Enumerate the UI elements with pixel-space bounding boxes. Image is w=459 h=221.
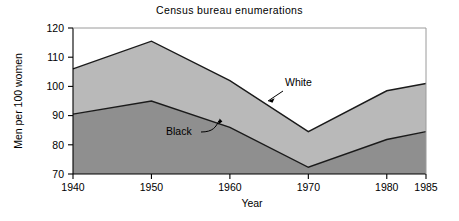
x-tick-label: 1980 <box>375 181 399 193</box>
x-tick-label: 1970 <box>297 181 321 193</box>
y-tick-label: 100 <box>46 80 64 92</box>
y-tick-label: 120 <box>46 22 64 34</box>
chart-figure: 708090100110120 194019501960197019801985… <box>0 0 459 221</box>
x-tick-label: 1950 <box>140 181 164 193</box>
area-chart: 708090100110120 194019501960197019801985… <box>0 0 459 221</box>
y-tick-label: 80 <box>52 139 64 151</box>
x-tick-label: 1940 <box>61 181 85 193</box>
chart-title: Census bureau enumerations <box>156 4 303 16</box>
x-tick-label: 1985 <box>414 181 438 193</box>
x-axis-title: Year <box>241 197 263 209</box>
annotation-label-black: Black <box>166 125 192 137</box>
x-tick-label: 1960 <box>218 181 242 193</box>
y-tick-label: 90 <box>52 109 64 121</box>
y-tick-label: 70 <box>52 168 64 180</box>
y-tick-label: 110 <box>47 51 64 63</box>
y-axis-title: Men per 100 women <box>12 53 24 149</box>
annotation-label-white: White <box>285 76 312 88</box>
